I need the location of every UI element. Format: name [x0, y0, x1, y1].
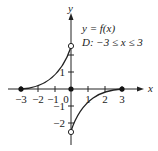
x-tick-labels: −3 −2 −1 0 1 2 3	[15, 93, 125, 105]
x-axis-arrow-icon	[137, 87, 144, 92]
right-branch-curve	[71, 89, 122, 131]
domain-label: D: −3 ≤ x ≤ 3	[81, 36, 143, 48]
y-axis-label: y	[67, 2, 73, 14]
y-axis-arrow-icon	[69, 13, 74, 20]
svg-text:−2: −2	[53, 117, 65, 129]
closed-point-origin	[68, 86, 73, 91]
function-label: y = f(x)	[81, 22, 115, 35]
svg-text:3: 3	[119, 93, 125, 105]
closed-point-right	[119, 86, 124, 91]
svg-text:2: 2	[102, 93, 108, 105]
svg-text:−1: −1	[53, 100, 65, 112]
graph-canvas: −3 −2 −1 0 1 2 3 1 −1 −2 x y y = f(x) D:…	[0, 0, 158, 151]
open-point-top	[68, 43, 73, 48]
svg-text:−3: −3	[15, 93, 27, 105]
x-axis-label: x	[147, 82, 153, 94]
closed-point-left	[18, 86, 23, 91]
svg-text:−2: −2	[32, 93, 44, 105]
open-point-bottom	[68, 129, 73, 134]
